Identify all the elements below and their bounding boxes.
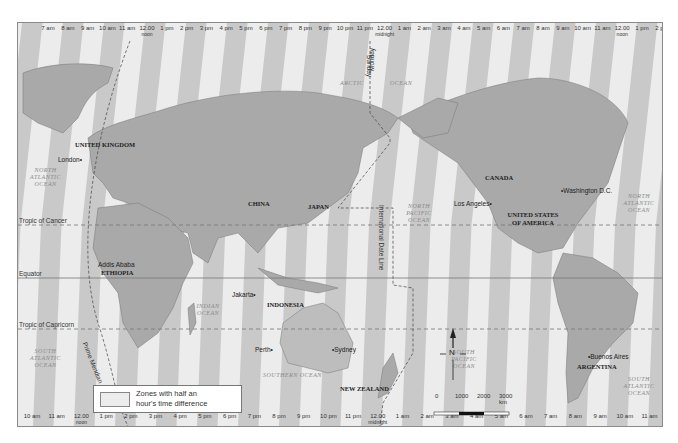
time-label: 11 am bbox=[119, 25, 135, 31]
city-name: Los Angeles bbox=[454, 200, 489, 207]
time-label: 6 pm bbox=[223, 413, 236, 419]
label-text: UNITED KINGDOM bbox=[75, 141, 135, 148]
time-label: 1 am bbox=[396, 413, 409, 419]
scale-bar: 0100020003000 km bbox=[433, 393, 513, 421]
city-name: London bbox=[58, 156, 80, 163]
time-label: 8 am bbox=[536, 25, 549, 31]
time-label: 4 pm bbox=[174, 413, 187, 419]
north-arrow: N bbox=[438, 328, 468, 387]
time-label: 11 am bbox=[641, 413, 657, 419]
time-label: 5 pm bbox=[239, 25, 252, 31]
scale-tick-label: 1000 bbox=[455, 393, 468, 399]
city-washington: •Washington D.C. bbox=[561, 187, 612, 194]
time-label: 7 pm bbox=[279, 25, 292, 31]
time-label: 10 am bbox=[616, 413, 633, 419]
time-label: 8 am bbox=[61, 25, 74, 31]
time-label: 1 pm bbox=[635, 25, 648, 31]
time-label: 9 am bbox=[81, 25, 94, 31]
label-south-atlantic-east: SOUTH ATLANTIC OCEAN bbox=[618, 376, 660, 397]
time-label-sub: noon bbox=[615, 31, 630, 37]
time-label-sub: midnight bbox=[375, 31, 394, 37]
time-label: 12.00noon bbox=[139, 25, 154, 37]
scale-bar-graphic bbox=[433, 411, 513, 417]
city-sydney: •Sydney bbox=[332, 346, 356, 353]
city-london: London• bbox=[58, 156, 82, 163]
label-tropic-of-capricorn: Tropic of Capricorn bbox=[19, 321, 74, 328]
label-north-atlantic-west: NORTH ATLANTIC OCEAN bbox=[23, 167, 68, 188]
label-new-zealand: NEW ZEALAND bbox=[340, 385, 389, 393]
label-south-atlantic-west: SOUTH ATLANTIC OCEAN bbox=[23, 348, 68, 369]
time-label: 12.00midnight bbox=[368, 413, 387, 425]
legend: Zones with half an hour's time differenc… bbox=[93, 385, 242, 413]
label-north-atlantic-east: NORTH ATLANTIC OCEAN bbox=[618, 193, 660, 214]
time-label: 12.00noon bbox=[74, 413, 89, 425]
city-name: Washington D.C. bbox=[563, 187, 612, 194]
time-label: 2 pm bbox=[124, 413, 137, 419]
label-arctic: ARCTIC bbox=[340, 80, 364, 87]
time-label: 9 pm bbox=[319, 25, 332, 31]
label-argentina: ARGENTINA bbox=[577, 363, 617, 371]
time-label: 2 am bbox=[418, 25, 431, 31]
city-name: Sydney bbox=[334, 346, 356, 353]
time-label: 1 am bbox=[398, 25, 411, 31]
time-label-sub: midnight bbox=[368, 419, 387, 425]
label-indonesia: INDONESIA bbox=[267, 301, 304, 309]
time-label: 9 am bbox=[593, 413, 606, 419]
city-name: Perth bbox=[255, 346, 271, 353]
time-label: 10 pm bbox=[320, 413, 337, 419]
time-label: 7 am bbox=[41, 25, 54, 31]
time-label: 11 pm bbox=[345, 413, 361, 419]
legend-swatch-half-hour-zone bbox=[100, 392, 130, 407]
time-label-sub: noon bbox=[74, 419, 89, 425]
time-label: 1 pm bbox=[99, 413, 112, 419]
time-label: 6 am bbox=[497, 25, 510, 31]
time-label: 7 am bbox=[517, 25, 530, 31]
time-label: 5 pm bbox=[198, 413, 211, 419]
city-buenos-aires: •Buenos Aires bbox=[588, 353, 629, 360]
city-name: Buenos Aires bbox=[590, 353, 628, 360]
label-sunday: Sunday bbox=[366, 55, 373, 77]
time-label: 9 am bbox=[556, 25, 569, 31]
time-label: 3 am bbox=[437, 25, 450, 31]
time-label: 4 pm bbox=[220, 25, 233, 31]
label-indian-ocean: INDIAN OCEAN bbox=[188, 303, 228, 317]
north-label: N bbox=[449, 348, 455, 357]
scale-tick-label: 3000 km bbox=[499, 393, 513, 405]
legend-line-1: Zones with half an bbox=[136, 389, 207, 399]
legend-text: Zones with half an hour's time differenc… bbox=[136, 389, 207, 409]
time-label: 2 pm bbox=[655, 25, 663, 31]
city-los-angeles: Los Angeles• bbox=[454, 200, 492, 207]
time-label: 11 am bbox=[49, 413, 65, 419]
time-label: 7 am bbox=[544, 413, 557, 419]
time-label: 3 pm bbox=[149, 413, 162, 419]
time-label: 4 am bbox=[457, 25, 470, 31]
label-arctic-ocean: OCEAN bbox=[390, 80, 412, 87]
label-usa: UNITED STATES OF AMERICA bbox=[503, 211, 563, 227]
time-label: 11 am bbox=[594, 25, 610, 31]
time-label: 10 pm bbox=[337, 25, 354, 31]
time-zone-map: 7 am8 am9 am10 am11 am12.00noon1 pm2 pm3… bbox=[17, 22, 663, 427]
time-label: 10 am bbox=[99, 25, 116, 31]
time-label: 1 pm bbox=[160, 25, 173, 31]
label-ethiopia: ETHIOPIA bbox=[101, 269, 134, 277]
legend-line-2: hour's time difference bbox=[136, 399, 207, 409]
label-tropic-of-cancer: Tropic of Cancer bbox=[19, 217, 67, 224]
city-name: Jakarta bbox=[232, 291, 253, 298]
time-label: 10 am bbox=[574, 25, 591, 31]
time-label: 12.00midnight bbox=[375, 25, 394, 37]
city-addis-ababa: Addis Ababa bbox=[98, 261, 135, 268]
time-label: 2 pm bbox=[180, 25, 193, 31]
label-north-pacific: NORTH PACIFIC OCEAN bbox=[400, 203, 438, 224]
time-label: 12.00noon bbox=[615, 25, 630, 37]
city-perth: Perth• bbox=[255, 346, 273, 353]
label-japan: JAPAN bbox=[308, 203, 329, 211]
bottom-time-scale: 10 am11 am12.00noon1 pm2 pm3 pm4 pm5 pm6… bbox=[18, 413, 662, 427]
time-label: 8 pm bbox=[299, 25, 312, 31]
time-label: 9 pm bbox=[297, 413, 310, 419]
time-label: 10 am bbox=[24, 413, 41, 419]
label-canada: CANADA bbox=[485, 174, 513, 182]
city-jakarta: Jakarta• bbox=[232, 291, 256, 298]
time-label: 6 am bbox=[519, 413, 532, 419]
scale-tick-label: 2000 bbox=[477, 393, 490, 399]
time-label: 5 am bbox=[477, 25, 490, 31]
